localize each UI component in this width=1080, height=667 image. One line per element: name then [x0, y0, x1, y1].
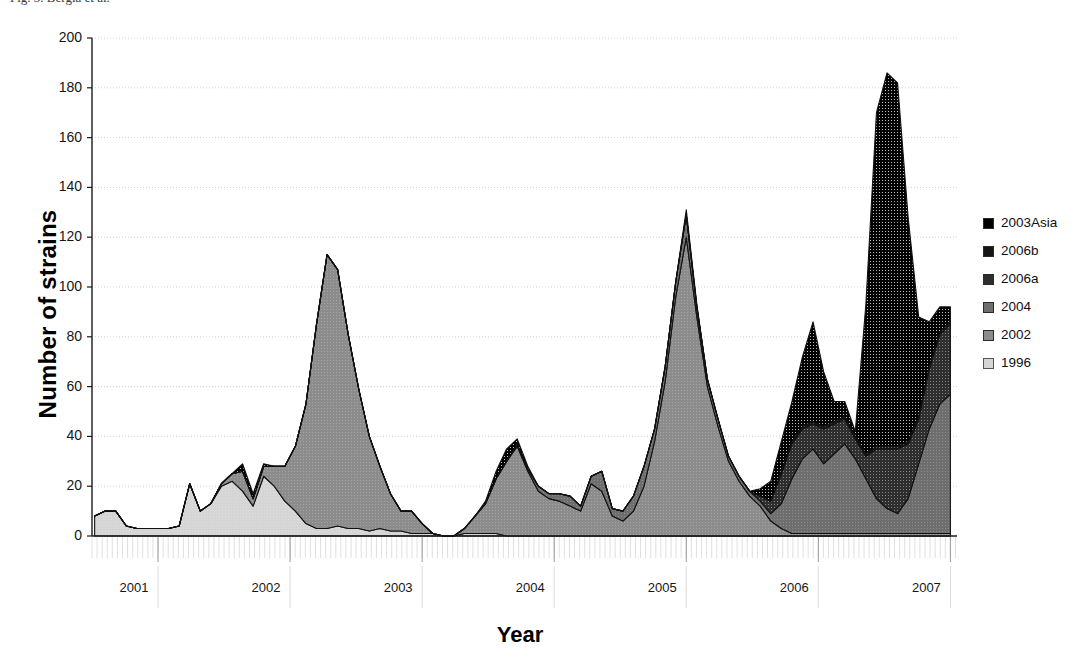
y-tick-label: 180	[30, 79, 82, 95]
x-tick-label: 2004	[495, 580, 565, 595]
legend-item: 2003Asia	[983, 216, 1057, 230]
x-tick-label: 2003	[363, 580, 433, 595]
y-tick-label: 160	[30, 129, 82, 145]
y-tick-label: 80	[30, 328, 82, 344]
legend-swatch-icon	[983, 358, 994, 369]
x-tick-label: 2007	[891, 580, 961, 595]
x-tick-label: 2002	[231, 580, 301, 595]
y-tick-label: 100	[30, 278, 82, 294]
y-tick-label: 60	[30, 378, 82, 394]
legend-item: 2004	[983, 300, 1057, 314]
y-tick-marks	[87, 38, 92, 536]
legend-label: 2004	[1001, 300, 1031, 314]
area-chart-plot	[0, 0, 1080, 667]
legend-item: 2006b	[983, 244, 1057, 258]
legend-label: 1996	[1001, 356, 1031, 370]
legend-label: 2006a	[1001, 272, 1039, 286]
y-tick-label: 0	[30, 527, 82, 543]
x-tick-label: 2005	[627, 580, 697, 595]
x-tick-label: 2001	[99, 580, 169, 595]
legend-swatch-icon	[983, 302, 994, 313]
y-axis-title: Number of strains	[34, 184, 62, 444]
legend-swatch-icon	[983, 274, 994, 285]
y-tick-label: 140	[30, 178, 82, 194]
stacked-areas	[95, 73, 951, 536]
legend-item: 2006a	[983, 272, 1057, 286]
figure-container: Fig. 3. Bergia et al. Number of strains …	[0, 0, 1080, 667]
legend-swatch-icon	[983, 246, 994, 257]
y-tick-label: 200	[30, 29, 82, 45]
legend-item: 1996	[983, 356, 1057, 370]
legend-label: 2002	[1001, 328, 1031, 342]
x-tick-label: 2006	[759, 580, 829, 595]
y-tick-label: 120	[30, 228, 82, 244]
legend-label: 2003Asia	[1001, 216, 1057, 230]
legend-item: 2002	[983, 328, 1057, 342]
legend-swatch-icon	[983, 218, 994, 229]
legend-label: 2006b	[1001, 244, 1039, 258]
legend-swatch-icon	[983, 330, 994, 341]
y-tick-label: 20	[30, 477, 82, 493]
x-axis-title: Year	[380, 622, 660, 648]
chart-legend: 2003Asia2006b2006a200420021996	[983, 216, 1057, 370]
y-tick-label: 40	[30, 427, 82, 443]
x-tick-marks	[92, 537, 955, 608]
